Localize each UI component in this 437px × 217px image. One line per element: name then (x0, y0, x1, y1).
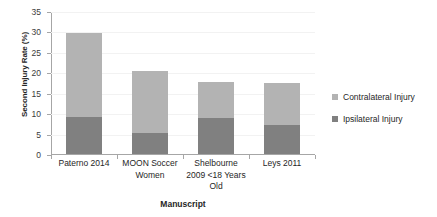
bar-segment-contralateral[interactable] (66, 33, 102, 117)
y-axis-tick-label: 5 (36, 130, 41, 140)
x-axis-tick (315, 155, 316, 159)
y-axis-tick: 5 (47, 135, 51, 136)
x-axis-title: Manuscript (51, 199, 315, 209)
x-axis-category-label: MOON SoccerWomen (117, 158, 183, 181)
x-axis-category-label-line: Paterno 2014 (51, 158, 117, 170)
bar-stack[interactable] (198, 82, 234, 154)
legend-swatch-icon (332, 116, 338, 122)
legend-item-label: Ipsilateral Injury (343, 114, 403, 124)
y-axis-tick: 15 (47, 94, 51, 95)
y-axis-tick: 35 (47, 12, 51, 13)
y-axis-tick: 10 (47, 114, 51, 115)
stacked-bar-chart: Second Injury Rate (%) 05101520253035 Pa… (0, 0, 437, 217)
legend-item-label: Contralateral Injury (343, 92, 415, 102)
x-axis-category-label: Paterno 2014 (51, 158, 117, 170)
x-axis-category-label-line: MOON Soccer (117, 158, 183, 170)
bar-stack[interactable] (66, 33, 102, 154)
bar-segment-ipsilateral[interactable] (132, 133, 168, 154)
x-axis-category-label-line: Old (183, 181, 249, 193)
x-axis-category-label-line: Shelbourne (183, 158, 249, 170)
x-axis-category-label-line: 2009 <18 Years (183, 170, 249, 182)
x-axis-category-label-line: Leys 2011 (249, 158, 315, 170)
chart-legend: Contralateral InjuryIpsilateral Injury (332, 92, 415, 136)
y-axis-tick-label: 10 (32, 109, 41, 119)
x-axis-category-label: Shelbourne2009 <18 YearsOld (183, 158, 249, 193)
x-axis-category-label-line: Women (117, 170, 183, 182)
y-axis-tick-label: 25 (32, 48, 41, 58)
y-axis-tick-label: 15 (32, 89, 41, 99)
bar-segment-contralateral[interactable] (198, 82, 234, 118)
legend-item[interactable]: Contralateral Injury (332, 92, 415, 102)
y-axis-tick-label: 20 (32, 68, 41, 78)
y-axis-tick: 25 (47, 53, 51, 54)
legend-swatch-icon (332, 94, 338, 100)
y-axis-tick: 30 (47, 32, 51, 33)
plot-area: 05101520253035 (51, 12, 315, 155)
bar-stack[interactable] (264, 83, 300, 154)
legend-item[interactable]: Ipsilateral Injury (332, 114, 415, 124)
bar-segment-ipsilateral[interactable] (198, 118, 234, 154)
y-axis-tick-label: 35 (32, 7, 41, 17)
x-axis-category-label: Leys 2011 (249, 158, 315, 170)
bar-segment-ipsilateral[interactable] (66, 117, 102, 154)
y-axis-tick-label: 0 (36, 150, 41, 160)
bar-segment-contralateral[interactable] (132, 71, 168, 133)
y-axis-tick: 20 (47, 73, 51, 74)
bar-stack[interactable] (132, 71, 168, 154)
y-axis-tick-label: 30 (32, 27, 41, 37)
y-axis-title: Second Injury Rate (%) (20, 10, 29, 140)
gridline (51, 12, 315, 13)
bar-segment-ipsilateral[interactable] (264, 125, 300, 154)
y-axis-line (51, 12, 52, 155)
bar-segment-contralateral[interactable] (264, 83, 300, 124)
